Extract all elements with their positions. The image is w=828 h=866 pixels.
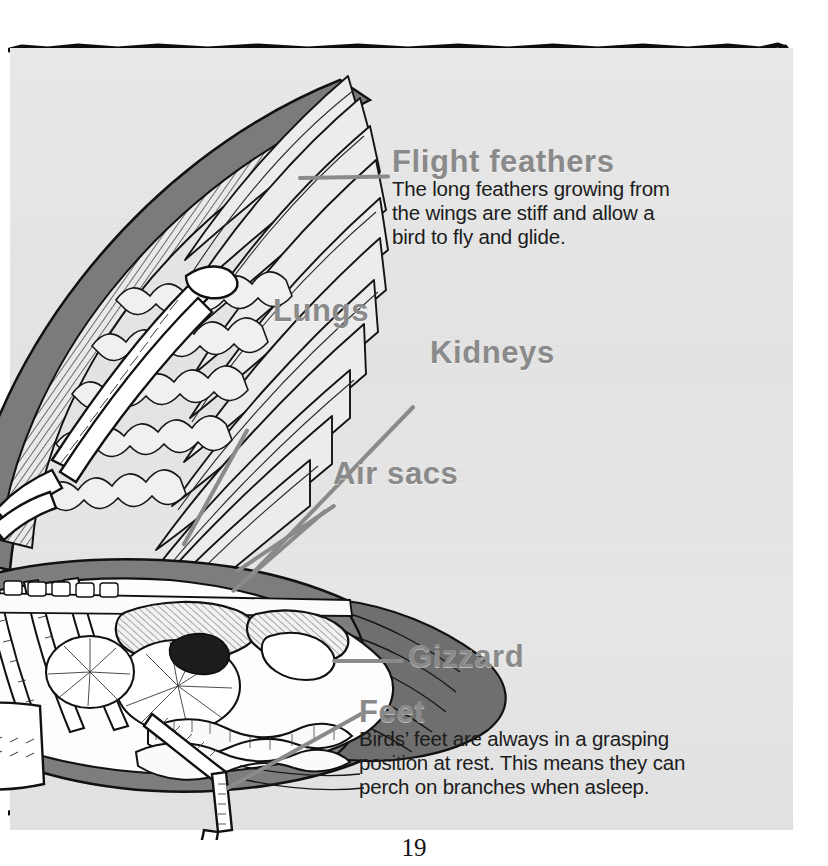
callout-heading-gizzard: Gizzard	[408, 641, 524, 672]
callout-lungs: Lungs	[273, 295, 369, 326]
callout-feet: Feet Birds’ feet are always in a graspin…	[359, 696, 685, 799]
callout-heading-flight-feathers: Flight feathers	[392, 146, 670, 177]
callout-body-flight-feathers: The long feathers growing from the wings…	[392, 177, 670, 249]
callout-flight-feathers: Flight feathers The long feathers growin…	[392, 146, 670, 249]
callout-heading-air-sacs: Air sacs	[333, 458, 458, 489]
callout-body-feet: Birds’ feet are always in a grasping pos…	[359, 727, 685, 799]
callout-heading-lungs: Lungs	[273, 295, 369, 326]
page-number: 19	[0, 834, 828, 862]
leader-line-gizzard	[332, 659, 404, 663]
book-page: Flight feathers The long feathers growin…	[0, 0, 828, 866]
callout-heading-feet: Feet	[359, 696, 685, 727]
callout-kidneys: Kidneys	[430, 337, 555, 368]
callout-heading-kidneys: Kidneys	[430, 337, 555, 368]
callout-gizzard: Gizzard	[408, 641, 524, 672]
callout-air-sacs: Air sacs	[333, 458, 458, 489]
